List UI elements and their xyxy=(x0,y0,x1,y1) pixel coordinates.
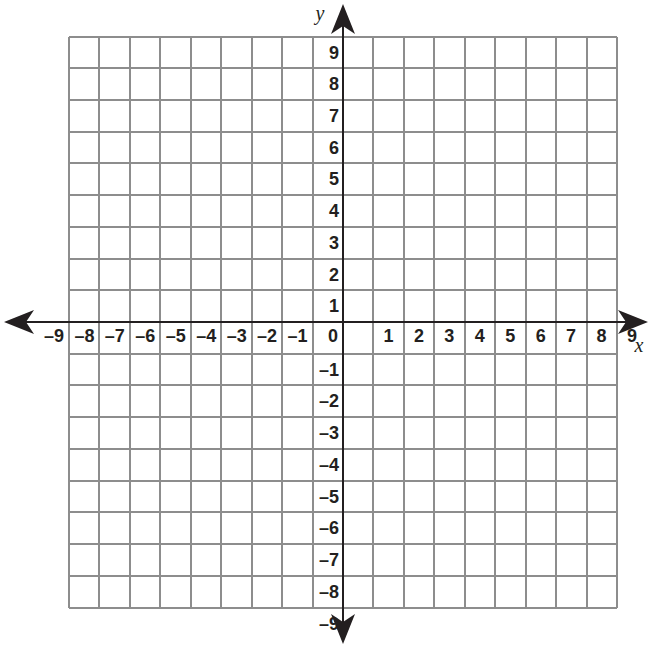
y-tick-label: 9 xyxy=(329,43,339,63)
x-tick-label: 6 xyxy=(536,326,546,346)
x-tick-label: 8 xyxy=(597,326,607,346)
y-tick-label: 5 xyxy=(329,169,339,189)
y-tick-label: –3 xyxy=(319,423,339,443)
y-tick-label: 2 xyxy=(329,265,339,285)
x-axis-tick-labels: –9–8–7–6–5–4–3–2–10123456789 xyxy=(44,326,637,346)
y-axis-label: y xyxy=(314,2,325,25)
y-tick-label: 6 xyxy=(329,138,339,158)
x-tick-label: 4 xyxy=(475,326,485,346)
x-tick-label: –9 xyxy=(44,326,64,346)
y-tick-label: 4 xyxy=(329,201,339,221)
x-tick-label: 3 xyxy=(444,326,454,346)
x-tick-label: –2 xyxy=(257,326,277,346)
x-tick-label: 1 xyxy=(383,326,393,346)
y-tick-label: 8 xyxy=(329,74,339,94)
x-tick-label: –6 xyxy=(135,326,155,346)
y-tick-label: 1 xyxy=(329,296,339,316)
y-tick-label: –1 xyxy=(319,360,339,380)
y-tick-label: –9 xyxy=(319,614,339,634)
x-tick-label: 5 xyxy=(505,326,515,346)
y-tick-label: –8 xyxy=(319,582,339,602)
x-tick-label: –8 xyxy=(74,326,94,346)
y-tick-label: –6 xyxy=(319,518,339,538)
x-tick-label: 7 xyxy=(566,326,576,346)
x-tick-label: –5 xyxy=(166,326,186,346)
x-tick-label: –7 xyxy=(105,326,125,346)
y-tick-label: –5 xyxy=(319,487,339,507)
x-tick-label: 2 xyxy=(414,326,424,346)
x-tick-label: –1 xyxy=(288,326,308,346)
coordinate-plane: –9–8–7–6–5–4–3–2–10123456789 987654321–1… xyxy=(0,0,652,648)
y-tick-label: –2 xyxy=(319,391,339,411)
x-tick-label: –3 xyxy=(227,326,247,346)
y-tick-label: 7 xyxy=(329,106,339,126)
x-axis-label: x xyxy=(634,334,644,356)
x-tick-label: 0 xyxy=(328,326,338,346)
x-tick-label: –4 xyxy=(196,326,216,346)
y-tick-label: –4 xyxy=(319,455,339,475)
y-tick-label: –7 xyxy=(319,550,339,570)
y-tick-label: 3 xyxy=(329,233,339,253)
